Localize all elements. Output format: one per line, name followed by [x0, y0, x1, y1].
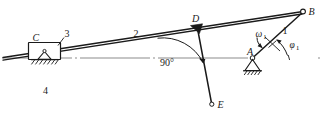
label-link-3: 3 — [65, 28, 70, 39]
label-link-1: 1 — [283, 25, 288, 36]
fixed-pivot-A — [243, 56, 262, 75]
point-E-circle — [210, 102, 214, 106]
ground-hatching-C — [31, 60, 58, 64]
label-link-4: 4 — [43, 85, 48, 96]
omega-subscript: 1 — [263, 33, 266, 40]
mechanism-diagram: A B C D E 1 2 3 4 90° ω 1 φ 1 — [0, 0, 325, 120]
label-point-E: E — [217, 99, 224, 110]
label-omega-1: ω 1 — [256, 29, 267, 41]
label-point-D: D — [191, 13, 200, 24]
link-DE — [198, 29, 212, 104]
label-point-A: A — [246, 46, 254, 57]
phi-subscript: 1 — [296, 44, 299, 51]
label-point-B: B — [309, 6, 315, 17]
label-phi-1: φ 1 — [290, 40, 300, 52]
label-point-C: C — [33, 32, 40, 43]
phi-baseline-tick — [288, 55, 289, 60]
support-triangle-A — [245, 60, 260, 71]
omega-symbol: ω — [256, 29, 263, 39]
phi-symbol: φ — [290, 40, 295, 50]
joint-B — [301, 9, 306, 14]
point-B-circle — [301, 9, 306, 14]
ground-hatching-A — [244, 71, 260, 75]
omega-rotation-arrow — [257, 38, 263, 49]
point-C-circle — [43, 49, 46, 52]
mechanism-svg: A B C D E 1 2 3 4 90° ω 1 φ 1 — [0, 0, 325, 120]
link-DE-extension — [198, 29, 214, 107]
label-right-angle: 90° — [160, 57, 174, 68]
label-link-2: 2 — [134, 28, 139, 39]
